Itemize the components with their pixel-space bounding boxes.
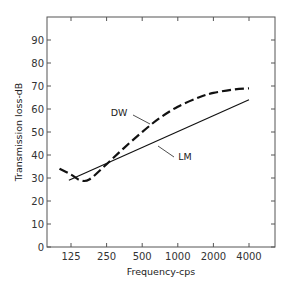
y-tick-label: 0 [38,242,44,253]
x-tick-label: 500 [133,251,152,262]
y-tick-label: 70 [31,81,44,92]
y-tick-label: 10 [31,219,44,230]
series-dw-line [60,88,250,181]
x-axis-label: Frequency-cps [127,266,196,277]
data-series: DWLM [60,88,250,181]
x-tick-label: 250 [97,251,116,262]
y-tick-label: 20 [31,196,44,207]
lm-leader-line [158,146,174,157]
y-tick-label: 40 [31,150,44,161]
x-tick-label: 1000 [165,251,190,262]
series-lm-line [69,100,249,181]
lm-series-label: LM [178,151,192,162]
y-axis-label: Transmission loss-dB [13,83,24,183]
y-tick-label: 50 [31,127,44,138]
y-axis-ticks: 0102030405060708090 [31,35,275,253]
dw-leader-line [133,115,150,124]
transmission-loss-chart: 0102030405060708090 12525050010002000400… [0,0,288,290]
y-tick-label: 90 [31,35,44,46]
x-tick-label: 2000 [201,251,226,262]
y-tick-label: 30 [31,173,44,184]
x-tick-label: 125 [61,251,80,262]
y-tick-label: 60 [31,104,44,115]
plot-frame [47,17,275,247]
dw-series-label: DW [111,107,128,118]
plot-border [47,17,275,247]
y-tick-label: 80 [31,58,44,69]
x-tick-label: 4000 [236,251,261,262]
